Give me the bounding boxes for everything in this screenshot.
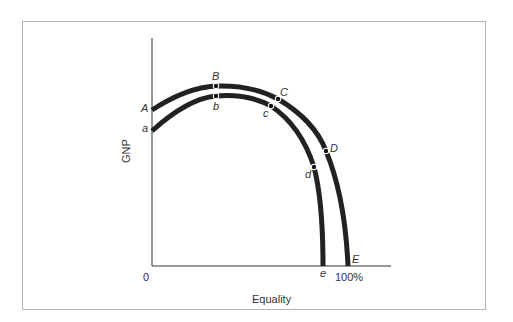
dot [214,94,218,98]
x-tick-origin: 0 [143,271,149,283]
dot [324,149,328,153]
label-A: A [140,102,148,114]
inner-frontier-curve [152,96,323,266]
label-E: E [352,253,360,265]
frontier-chart: A a B b C c D d E e 0 100% Equality GNP [0,0,513,322]
dot [312,165,316,169]
dot [269,104,273,108]
label-B: B [212,70,219,82]
y-axis-label: GNP [120,139,132,163]
dot [214,84,218,88]
label-b: b [213,100,219,112]
label-a: a [142,122,148,134]
label-e: e [320,267,326,279]
label-D: D [330,142,338,154]
x-tick-100: 100% [335,271,363,283]
label-C: C [280,86,288,98]
x-axis-label: Equality [252,293,292,305]
label-d: d [305,168,312,180]
label-c: c [263,107,269,119]
